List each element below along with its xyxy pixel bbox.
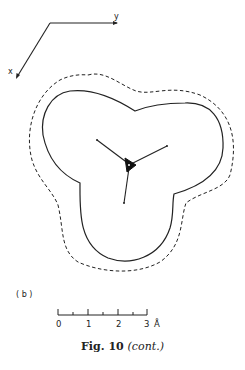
arm-upper-right [131, 146, 167, 164]
x-axis-line [17, 23, 50, 77]
solid-contour [42, 91, 223, 261]
caption-suffix: (cont.) [128, 340, 164, 353]
scale-tick-label: 2 [116, 319, 121, 329]
central-atom-triangle-icon [125, 158, 136, 172]
scale-bar [58, 309, 147, 315]
arm-end-dot [96, 139, 98, 141]
molecule-arms [97, 140, 167, 203]
x-axis-label: x [8, 67, 13, 76]
dashed-contour [29, 74, 233, 271]
arm-end-dot [123, 202, 125, 204]
figure-page: y x ( b ) 0 1 2 [0, 0, 245, 370]
y-axis-arrow-icon [113, 21, 118, 25]
arm-end-dot [166, 145, 168, 147]
panel-label: ( b ) [16, 290, 32, 299]
y-axis-label: y [114, 12, 119, 21]
scale-unit-label: Å [154, 318, 160, 329]
figure-drawing: y x ( b ) 0 1 2 [0, 0, 245, 370]
figure-caption: Fig. 10 (cont.) [0, 340, 245, 353]
central-atom-dot [128, 164, 130, 166]
arm-upper-left [97, 140, 129, 164]
scale-tick-label: 0 [56, 319, 61, 329]
scale-tick-label: 3 [144, 319, 149, 329]
arm-lower [124, 168, 129, 203]
scale-tick-label: 1 [86, 319, 91, 329]
caption-prefix: Fig. 10 [81, 340, 124, 353]
coordinate-axes [16, 21, 118, 79]
